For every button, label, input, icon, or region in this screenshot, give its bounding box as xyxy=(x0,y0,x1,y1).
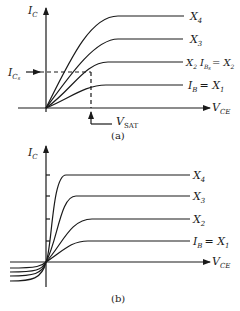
vsat-label: VSAT xyxy=(116,115,138,130)
curve-label-x1: IB= X1 xyxy=(192,235,230,250)
panel-b xyxy=(10,146,210,287)
curve-label-x4: X4 xyxy=(189,10,202,25)
curve-x1 xyxy=(46,241,190,262)
curve-label-x2: X2 xyxy=(192,213,206,228)
curve-x3 xyxy=(46,196,190,262)
diagram-canvas: IC VCE X4 X3 X2IBs= X2 IB= X1 ICs VSAT (… xyxy=(0,0,240,311)
ics-label: ICs xyxy=(7,66,21,81)
caption-a: (a) xyxy=(111,130,125,141)
curve-label-x3: X3 xyxy=(192,190,206,205)
y-axis-label: IC xyxy=(27,4,38,19)
curve-label-x4: X4 xyxy=(192,169,205,184)
transistor-characteristics-diagram: IC VCE X4 X3 X2IBs= X2 IB= X1 ICs VSAT (… xyxy=(0,0,240,311)
panel-b-labels: IC VCE X4 X3 X2 IB= X1 (b) xyxy=(27,146,230,304)
panel-a xyxy=(18,8,210,124)
reverse-curve-1 xyxy=(10,262,46,268)
curve-label-x3: X3 xyxy=(189,33,203,48)
caption-b: (b) xyxy=(111,293,125,304)
x-axis-label: VCE xyxy=(212,255,230,270)
curve-label-x1: IB= X1 xyxy=(187,79,225,94)
y-axis-label: IC xyxy=(27,146,38,161)
x-axis-label: VCE xyxy=(212,101,230,116)
curve-label-x2: X2IBs= X2 xyxy=(185,57,235,71)
curve-x1 xyxy=(46,85,183,108)
